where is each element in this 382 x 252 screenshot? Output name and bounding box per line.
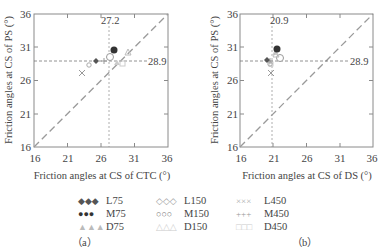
svg-text:26: 26 [96,152,108,164]
legend-item-d75: ▲▲▲D75 [78,220,124,234]
svg-text:36: 36 [162,152,174,164]
hline-label-a: 28.9 [148,56,166,67]
x-axis-label-b: Friction angles at CS of DS (°) [242,170,372,182]
legend-item-l150: ◇◇◇L150 [156,194,206,208]
panel-a: 36 31 26 21 16 16 21 26 31 36 27.2 28.9 [3,8,173,182]
svg-text:36: 36 [227,8,239,20]
vline-label-a: 27.2 [101,15,119,26]
legend-item-l450: ×××L450 [236,194,286,208]
markers-b [264,46,284,77]
marker-m150 [107,54,114,61]
svg-text:26: 26 [227,74,239,86]
legend-item-d150: △△△D150 [156,220,207,234]
x-axis-label-a: Friction angles at CS of CTC (°) [34,170,171,182]
diagonal-line-a [34,14,168,147]
marker-m75 [274,46,281,53]
y-axis-label-b: Friction angles at CS of PS (°) [209,16,221,144]
x-tick-labels-b: 16 21 26 31 36 [236,152,379,164]
svg-text:26: 26 [20,74,32,86]
vline-label-b: 20.9 [270,15,288,26]
svg-text:31: 31 [20,41,31,53]
cross-x-icon: ××× [236,194,264,208]
caption-b: （b） [292,234,317,249]
marker-l450 [268,70,274,76]
y-axis-label-a: Friction angles at CS of PS (°) [3,16,15,144]
svg-text:16: 16 [30,152,42,164]
y-tick-labels-b: 36 31 26 21 16 [227,8,239,153]
svg-text:21: 21 [269,152,280,164]
svg-text:21: 21 [227,108,238,120]
svg-text:21: 21 [20,108,31,120]
circle-filled-icon: ●●● [78,207,106,221]
x-tick-labels-a: 16 21 26 31 36 [30,152,174,164]
marker-l150 [87,63,91,67]
svg-text:21: 21 [63,152,74,164]
svg-text:31: 31 [227,41,238,53]
marker-m450 [101,58,107,64]
hline-label-b: 28.9 [350,56,368,67]
marker-m75 [111,47,118,54]
triangle-filled-icon: ▲▲▲ [78,220,106,234]
circle-outline-icon: ○○○ [156,207,184,221]
diagonal-line-b [240,14,373,147]
square-outline-icon: □□□ [236,220,264,234]
legend-item-m150: ○○○M150 [156,207,209,221]
legend-item-m75: ●●●M75 [78,207,126,221]
legend-item-m450: +++M450 [236,207,289,221]
plus-icon: +++ [236,207,264,221]
svg-text:26: 26 [302,152,314,164]
panel-b: 36 31 26 21 16 16 21 26 31 36 20.9 28.9 [209,8,378,182]
svg-text:31: 31 [129,152,140,164]
diamond-filled-icon: ◆◆◆ [78,194,106,208]
y-tick-labels-a: 36 31 26 21 16 [20,8,32,153]
marker-l450 [79,70,85,76]
legend-item-l75: ◆◆◆L75 [78,194,123,208]
svg-text:36: 36 [367,152,379,164]
svg-text:31: 31 [335,152,346,164]
svg-text:16: 16 [236,152,248,164]
marker-m150 [277,55,284,62]
svg-text:36: 36 [20,8,32,20]
caption-a: （a） [72,234,97,249]
circle-small-outline-icon: ◇◇◇ [156,194,184,208]
legend-item-d450: □□□D450 [236,220,287,234]
triangle-outline-icon: △△△ [156,220,184,234]
marker-l75 [93,58,99,64]
